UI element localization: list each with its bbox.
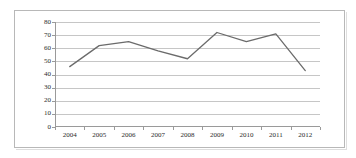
x-tick-label: 2006 xyxy=(122,131,136,139)
chart-figure: 01020304050607080 2004200520062007200820… xyxy=(0,0,356,158)
x-tick-label: 2004 xyxy=(63,131,77,139)
x-tick-mark xyxy=(261,127,262,130)
x-tick-mark xyxy=(291,127,292,130)
x-tick-mark xyxy=(202,127,203,130)
y-tick-label: 60 xyxy=(44,45,51,52)
plot-area xyxy=(55,22,320,127)
data-series-line xyxy=(55,22,320,127)
y-tick-label: 10 xyxy=(44,110,51,117)
series-polyline xyxy=(70,33,306,71)
y-tick-label: 40 xyxy=(44,71,51,78)
y-tick-label: 30 xyxy=(44,84,51,91)
x-tick-mark xyxy=(173,127,174,130)
x-tick-label: 2007 xyxy=(151,131,165,139)
x-tick-label: 2008 xyxy=(181,131,195,139)
x-tick-mark xyxy=(320,127,321,130)
x-tick-label: 2010 xyxy=(239,131,253,139)
y-tick-label: 0 xyxy=(48,124,52,131)
x-axis-tick-labels: 200420052006200720082009201020112012 xyxy=(55,131,320,143)
y-tick-label: 80 xyxy=(44,19,51,26)
y-tick-label: 20 xyxy=(44,97,51,104)
x-tick-mark xyxy=(232,127,233,130)
y-axis-tick-labels: 01020304050607080 xyxy=(36,22,51,127)
x-tick-mark xyxy=(55,127,56,130)
y-tick-label: 50 xyxy=(44,58,51,65)
y-tick-label: 70 xyxy=(44,32,51,39)
x-tick-label: 2009 xyxy=(210,131,224,139)
x-tick-label: 2005 xyxy=(92,131,106,139)
x-tick-mark xyxy=(84,127,85,130)
x-tick-label: 2011 xyxy=(269,131,283,139)
x-tick-mark xyxy=(143,127,144,130)
x-tick-label: 2012 xyxy=(298,131,312,139)
x-tick-mark xyxy=(114,127,115,130)
